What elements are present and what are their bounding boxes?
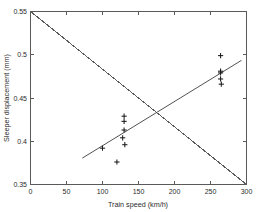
x-tick-label: 300 <box>241 188 253 195</box>
x-tick-label: 50 <box>63 188 71 195</box>
scatter-plot: 050100150200250300 0.350.40.450.50.55 Tr… <box>0 0 258 212</box>
data-point <box>122 142 127 147</box>
x-tick-label: 200 <box>169 188 181 195</box>
y-axis-title: Sleeper displacement (mm) <box>2 54 11 142</box>
x-axis-tick-labels: 050100150200250300 <box>29 188 253 195</box>
y-tick-label: 0.45 <box>13 95 27 102</box>
data-point <box>122 114 127 119</box>
x-tick-label: 100 <box>97 188 109 195</box>
x-tick-label: 250 <box>205 188 217 195</box>
y-tick-label: 0.55 <box>13 8 27 15</box>
data-point <box>114 159 119 164</box>
data-point <box>218 53 223 58</box>
x-tick-label: 150 <box>133 188 145 195</box>
data-point <box>219 82 224 87</box>
x-tick-label: 0 <box>29 188 33 195</box>
data-point <box>122 119 127 124</box>
data-point <box>218 76 223 81</box>
data-point <box>120 135 125 140</box>
y-tick-label: 0.35 <box>13 181 27 188</box>
y-tick-label: 0.4 <box>17 138 27 145</box>
plot-frame <box>31 12 247 185</box>
y-axis-tick-labels: 0.350.40.450.50.55 <box>13 8 27 188</box>
chart-figure: 050100150200250300 0.350.40.450.50.55 Tr… <box>0 0 258 212</box>
regression-line <box>82 60 241 158</box>
y-tick-label: 0.5 <box>17 51 27 58</box>
x-axis-title: Train speed (km/h) <box>108 200 168 209</box>
